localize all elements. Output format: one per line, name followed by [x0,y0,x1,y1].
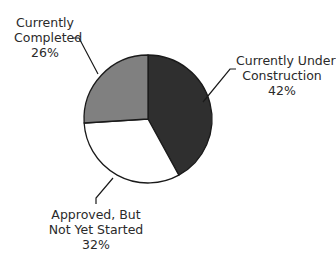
label-line2: Construction [236,68,328,83]
slice-label-approved-not-started: Approved, But Not Yet Started 32% [46,207,146,252]
label-line2: Not Yet Started [46,222,146,237]
slice-label-currently-completed: Currently Completed 26% [14,15,76,60]
pie-slices [84,55,212,183]
label-line1: Approved, But [46,207,146,222]
label-line2: Completed [14,30,76,45]
label-line1: Currently [14,15,76,30]
label-line1: Currently Under [236,53,328,68]
slice-label-under-construction: Currently Under Construction 42% [236,53,328,98]
label-percent: 42% [236,83,328,98]
label-percent: 26% [14,45,76,60]
leader-line-approved [96,178,113,204]
label-percent: 32% [46,237,146,252]
